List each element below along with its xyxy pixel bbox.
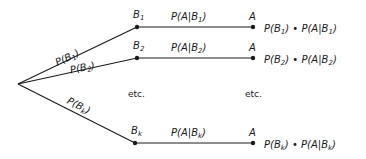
node-b1-label: B1 [133,9,144,22]
product-2-pre: P(B [264,54,281,65]
product-k-mid: ) • P(A|B [285,139,328,150]
leaf-ak-label: A [249,127,256,138]
product-2-close: ) [333,54,337,65]
cond-label-1-close: ) [202,11,206,22]
cond-label-2-text: P(A|B [171,42,198,53]
node-bk-sub: k [138,130,142,138]
node-bk-label: Bk [131,125,142,138]
cond-label-1: P(A|B1) [171,11,206,24]
product-k: P(Bk) • P(A|Bk) [264,139,336,152]
product-2-mid: ) • P(A|B [285,54,328,65]
etc-left: etc. [128,89,145,99]
product-1-pre: P(B [264,23,281,34]
product-1-close: ) [333,23,337,34]
etc-right: etc. [245,89,262,99]
cond-label-k-close: ) [202,127,206,138]
cond-label-1-text: P(A|B [171,11,198,22]
cond-label-k: P(A|Bk) [171,127,206,140]
product-k-pre: P(B [264,139,281,150]
cond-label-k-text: P(A|B [171,127,198,138]
node-b1-dot [135,25,139,29]
product-1: P(B1) • P(A|B1) [264,23,337,36]
node-bk-dot [133,141,137,145]
cond-label-2: P(A|B2) [171,42,206,55]
product-1-mid: ) • P(A|B [285,23,328,34]
node-b2-sub: 2 [140,45,144,53]
node-bk-letter: B [131,125,138,136]
leaf-a1-dot [251,25,255,29]
product-2: P(B2) • P(A|B2) [264,54,337,67]
node-b2-dot [135,56,139,60]
node-b2-letter: B [133,40,140,51]
cond-label-2-close: ) [202,42,206,53]
leaf-ak-dot [251,141,255,145]
product-k-close: ) [332,139,336,150]
leaf-a2-dot [251,56,255,60]
edge-label-b2-text: P(B [69,61,88,75]
node-b1-sub: 1 [140,14,144,22]
node-b1-letter: B [133,9,140,20]
node-b2-label: B2 [133,40,144,53]
leaf-a1-label: A [249,11,256,22]
leaf-a2-label: A [249,42,256,53]
